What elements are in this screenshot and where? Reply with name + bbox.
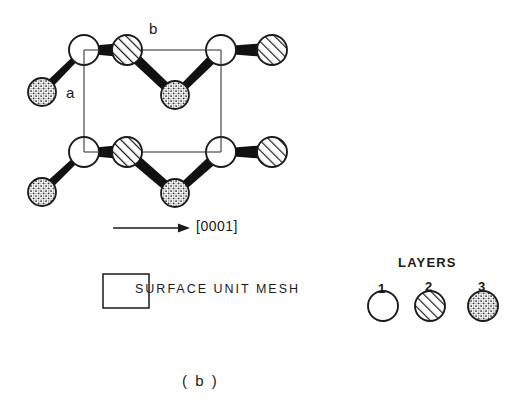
- atom-layer2: [257, 35, 287, 65]
- figure-canvas: a b [0001] SURFACE UNIT MESH LAYERS 1 2 …: [0, 0, 523, 415]
- atom-layer3: [28, 78, 56, 106]
- lattice-vector-b-label: b: [149, 20, 157, 37]
- figure-caption: ( b ): [182, 372, 219, 389]
- atom-layer2: [112, 35, 142, 65]
- crystal-structure-diagram: [0, 0, 523, 415]
- atom-layer3: [161, 81, 189, 109]
- atom-group-layer1: [69, 35, 236, 167]
- atom-group-layer3: [28, 78, 189, 207]
- legend-number-2: 2: [425, 279, 432, 294]
- layers-legend-title: LAYERS: [398, 255, 457, 270]
- legend-number-3: 3: [478, 279, 485, 294]
- legend-layer-circles: [368, 291, 498, 321]
- legend-circle-layer2: [415, 291, 445, 321]
- atom-layer2: [112, 137, 142, 167]
- surface-unit-mesh-label: SURFACE UNIT MESH: [135, 282, 300, 296]
- atom-layer3: [28, 178, 56, 206]
- lattice-vector-a-label: a: [66, 84, 74, 101]
- direction-arrow-icon: [113, 224, 190, 233]
- legend-number-1: 1: [378, 281, 385, 296]
- atom-layer3: [161, 179, 189, 207]
- atom-layer2: [257, 137, 287, 167]
- atom-group-layer2: [112, 35, 287, 167]
- legend-circle-layer3: [468, 291, 498, 321]
- direction-label: [0001]: [196, 218, 238, 234]
